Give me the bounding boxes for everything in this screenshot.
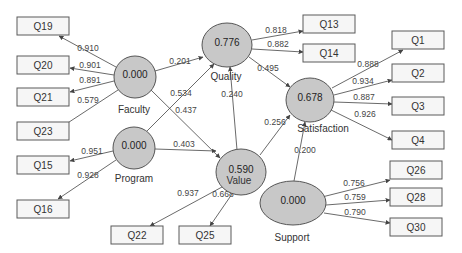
loading-quality-to-Q14: 0.882 [252, 39, 303, 52]
arrow-icon [252, 49, 303, 52]
path-coefficient-quality-to-satisfaction: 0.495 [249, 57, 290, 87]
indicator-label: Q1 [411, 35, 425, 46]
indicator-q3: Q3 [392, 97, 444, 115]
loading-quality-to-Q13: 0.818 [252, 25, 303, 40]
indicator-label: Q25 [196, 230, 215, 241]
indicator-q15: Q15 [17, 156, 69, 174]
loading-value: 0.891 [79, 75, 101, 85]
path-coefficient-value: 0.200 [294, 145, 316, 155]
path-coefficient-value: 0.534 [170, 88, 192, 98]
r-squared-value: 0.776 [214, 37, 239, 48]
r-squared-value: 0.000 [280, 195, 305, 206]
indicator-label: Q19 [34, 21, 53, 32]
loading-value: 0.901 [79, 60, 101, 70]
loading-value: 0.790 [344, 207, 366, 217]
loading-value: 0.888 [357, 59, 379, 69]
loading-value-to-Q25: 0.668 [210, 189, 234, 226]
path-coefficient-value: 0.240 [221, 89, 243, 99]
indicator-label: Q21 [34, 92, 53, 103]
arrow-icon [155, 149, 216, 151]
latent-label: Satisfaction [297, 123, 349, 134]
indicator-q22: Q22 [111, 226, 163, 244]
r-squared-value: 0.678 [297, 92, 322, 103]
indicator-q1: Q1 [392, 31, 444, 49]
loading-value: 0.759 [344, 192, 366, 202]
indicator-q28: Q28 [390, 188, 442, 206]
path-coefficient-value: 0.403 [173, 139, 195, 149]
loading-value: 0.951 [81, 146, 103, 156]
sem-path-diagram: 0.9100.9010.8910.5790.9510.9280.8180.882… [0, 0, 462, 253]
loading-value: 0.756 [343, 178, 365, 188]
loading-value: 0.928 [77, 170, 99, 180]
latent-support: 0.000Support [260, 181, 326, 243]
indicator-label: Q2 [411, 68, 425, 79]
loading-value: 0.887 [353, 92, 375, 102]
indicator-label: Q20 [34, 60, 53, 71]
latent-program: 0.000Program [113, 127, 155, 184]
indicator-q19: Q19 [17, 17, 69, 35]
r-squared-value: 0.000 [121, 140, 146, 151]
indicator-q16: Q16 [17, 200, 69, 218]
loading-value: 0.934 [352, 76, 374, 86]
latent-satisfaction: 0.678Satisfaction [286, 78, 349, 134]
loading-value-to-Q22: 0.937 [150, 187, 222, 226]
indicator-label: Q14 [320, 48, 339, 59]
latent-label: Quality [210, 71, 241, 82]
loading-faculty-to-Q21: 0.891 [70, 75, 114, 92]
path-coefficient-faculty-to-quality: 0.201 [155, 56, 203, 71]
loading-value: 0.937 [177, 188, 199, 198]
r-squared-value: 0.000 [122, 69, 147, 80]
latent-label: Faculty [118, 104, 150, 115]
loading-value: 0.926 [354, 109, 376, 119]
latent-faculty: 0.000Faculty [114, 56, 156, 115]
path-coefficient-value: 0.495 [257, 63, 279, 73]
loading-value: 0.882 [267, 39, 289, 49]
latent-label: Program [115, 173, 153, 184]
loading-value: 0.579 [77, 95, 99, 105]
indicator-label: Q13 [320, 19, 339, 30]
indicator-q2: Q2 [392, 64, 444, 82]
indicator-q26: Q26 [390, 161, 442, 179]
indicator-q14: Q14 [303, 44, 355, 62]
indicator-label: Q28 [407, 192, 426, 203]
indicator-label: Q3 [411, 101, 425, 112]
arrow-icon [334, 102, 392, 104]
path-coefficient-value-to-satisfaction: 0.256 [260, 115, 290, 155]
loading-value: 0.910 [77, 43, 99, 53]
path-coefficient-program-to-quality: 0.534 [147, 64, 214, 131]
loading-program-to-Q15: 0.951 [70, 146, 113, 161]
indicator-q25: Q25 [179, 226, 231, 244]
indicator-q4: Q4 [392, 131, 444, 149]
r-squared-value: 0.590 [228, 164, 253, 175]
indicator-q30: Q30 [390, 218, 442, 236]
indicator-label: Q30 [407, 222, 426, 233]
latent-label: Support [274, 232, 309, 243]
indicator-label: Q16 [34, 204, 53, 215]
indicator-q23: Q23 [17, 122, 69, 140]
indicator-label: Q22 [128, 230, 147, 241]
indicator-label: Q23 [34, 126, 53, 137]
path-coefficient-value: 0.437 [175, 105, 197, 115]
path-coefficient-value: 0.256 [264, 117, 286, 127]
loading-value: 0.818 [265, 25, 287, 35]
indicator-label: Q4 [411, 135, 425, 146]
path-coefficient-value: 0.201 [169, 56, 191, 66]
indicator-q21: Q21 [17, 88, 69, 106]
indicator-label: Q15 [34, 160, 53, 171]
latent-quality: 0.776Quality [202, 23, 252, 82]
indicator-label: Q26 [407, 165, 426, 176]
loading-support-to-Q30: 0.790 [324, 207, 390, 223]
loading-satisfaction-to-Q3: 0.887 [334, 92, 392, 104]
indicator-q13: Q13 [303, 15, 355, 33]
latent-value: 0.590Value [216, 149, 266, 195]
latent-label: Value [227, 175, 252, 186]
indicator-q20: Q20 [17, 56, 69, 74]
